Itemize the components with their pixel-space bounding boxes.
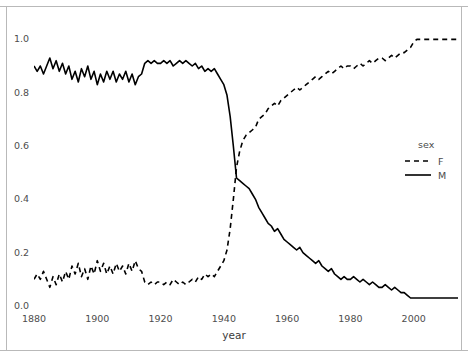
y-tick-label: 1.0 [3, 33, 29, 44]
x-tick-label: 1920 [138, 313, 184, 324]
series-line-f [34, 39, 458, 287]
x-tick-label: 1900 [74, 313, 120, 324]
figure-border-top [0, 6, 468, 7]
legend-label-f: F [438, 156, 443, 167]
line-chart-svg [34, 26, 458, 306]
x-tick-label: 1960 [264, 313, 310, 324]
plot-area [34, 26, 458, 306]
chart-legend: sex F M [404, 139, 462, 182]
legend-item-f: F [404, 154, 462, 168]
x-tick-label: 1880 [11, 313, 57, 324]
dashed-line-key [404, 155, 432, 167]
legend-item-m: M [404, 168, 462, 182]
legend-title: sex [418, 139, 462, 150]
solid-line-key [404, 169, 432, 181]
x-axis-title: year [0, 329, 468, 341]
x-tick-label: 1980 [327, 313, 373, 324]
x-tick-label: 1940 [201, 313, 247, 324]
y-tick-label: 0.4 [3, 193, 29, 204]
y-tick-label: 0.2 [3, 247, 29, 258]
legend-label-m: M [438, 170, 446, 181]
figure-border-bottom [0, 350, 468, 351]
y-tick-label: 0.8 [3, 87, 29, 98]
y-tick-label: 0.0 [3, 300, 29, 311]
y-tick-label: 0.6 [3, 140, 29, 151]
chart-figure: 0.00.20.40.60.81.0 188019001920194019601… [0, 0, 468, 357]
x-tick-label: 2000 [391, 313, 437, 324]
